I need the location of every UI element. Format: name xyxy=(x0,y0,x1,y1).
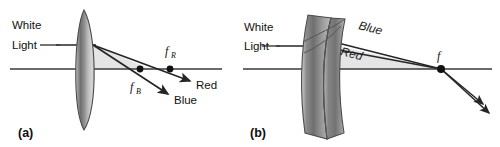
chromatic-aberration-figure: White Light f R f B Red Blue (a) xyxy=(0,0,500,147)
panel-a-focal-red-symbol: f xyxy=(165,44,170,58)
panel-a-red-ray-label: Red xyxy=(196,79,217,91)
panel-a-group: White Light f R f B Red Blue (a) xyxy=(10,10,222,140)
panel-a-source-label-line2: Light xyxy=(12,39,38,51)
panel-b-focal-point xyxy=(437,65,445,73)
panel-b-source-label-line1: White xyxy=(244,21,273,33)
panel-b-caption: (b) xyxy=(250,126,266,140)
panel-b-source-label-line2: Light xyxy=(244,40,270,52)
panel-a-blue-ray-label: Blue xyxy=(174,94,197,106)
panel-a-converging-lens xyxy=(76,10,94,130)
panel-a-focal-point-blue xyxy=(137,66,144,73)
panel-b-focal-label: f xyxy=(437,49,442,63)
figure-canvas: White Light f R f B Red Blue (a) xyxy=(0,0,500,147)
panel-a-source-label-line1: White xyxy=(12,19,41,31)
panel-a-caption: (a) xyxy=(18,126,33,140)
panel-a-focal-blue-subscript: B xyxy=(136,87,141,96)
panel-b-group: White Light Blue Red f (b) xyxy=(243,15,492,140)
panel-b-blue-ray-label: Blue xyxy=(357,18,384,37)
panel-a-focal-red-subscript: R xyxy=(170,51,176,60)
panel-a-focal-point-red xyxy=(167,66,174,73)
panel-a-focal-blue-symbol: f xyxy=(130,80,135,94)
panel-b-outgoing-ray-lower xyxy=(441,69,489,113)
